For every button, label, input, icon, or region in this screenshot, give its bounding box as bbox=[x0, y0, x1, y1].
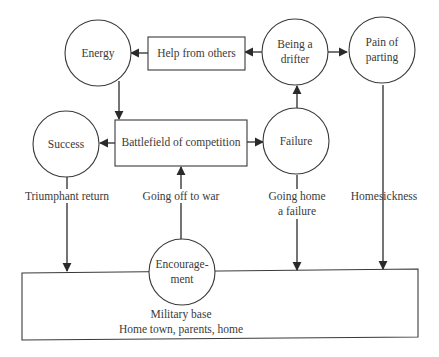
node-failure: Failure bbox=[263, 108, 329, 174]
node-pain-label-1: Pain of bbox=[366, 36, 399, 48]
edge-label-a-failure: a failure bbox=[278, 205, 316, 217]
node-help-label: Help from others bbox=[157, 47, 236, 60]
node-energy-label: Energy bbox=[81, 47, 114, 60]
node-pain: Pain of parting bbox=[349, 17, 415, 83]
node-help: Help from others bbox=[148, 37, 245, 70]
node-encouragement: Encourage- ment bbox=[149, 239, 215, 305]
node-failure-label: Failure bbox=[280, 135, 313, 147]
node-drifter-label-2: drifter bbox=[281, 53, 310, 65]
node-drifter-label-1: Being a bbox=[277, 38, 312, 51]
node-encouragement-label-1: Encourage- bbox=[156, 258, 209, 271]
diagram-canvas: Energy Help from others Being a drifter … bbox=[0, 0, 439, 357]
edge-label-triumphant-return: Triumphant return bbox=[25, 190, 109, 203]
edge-label-going-home: Going home bbox=[268, 190, 325, 203]
node-success: Success bbox=[33, 111, 99, 177]
node-battlefield: Battlefield of competition bbox=[115, 120, 247, 166]
node-drifter: Being a drifter bbox=[262, 19, 328, 85]
node-battlefield-label: Battlefield of competition bbox=[122, 136, 241, 149]
edge-label-homesickness: Homesickness bbox=[351, 190, 418, 202]
node-pain-label-2: parting bbox=[366, 51, 399, 64]
node-home-label-2: Home town, parents, home bbox=[119, 323, 243, 336]
node-energy: Energy bbox=[65, 20, 131, 86]
edge-label-going-off-to-war: Going off to war bbox=[143, 190, 220, 203]
node-home-label-1: Military base bbox=[151, 308, 212, 321]
node-encouragement-label-2: ment bbox=[171, 273, 195, 285]
node-success-label: Success bbox=[48, 138, 85, 150]
